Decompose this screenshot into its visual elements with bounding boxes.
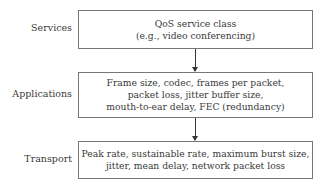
transport-box: Peak rate, sustainable rate, maximum bur… — [78, 141, 313, 179]
applications-line: mouth-to-ear delay, FEC (redundancy) — [106, 101, 284, 113]
layer-label-services: Services — [0, 22, 72, 33]
applications-line: packet loss, jitter buffer size, — [128, 89, 264, 101]
transport-line: jitter, mean delay, network packet loss — [106, 160, 285, 172]
services-box: QoS service class (e.g., video conferenc… — [78, 10, 313, 49]
arrow-applications-to-transport — [195, 118, 196, 140]
layer-label-transport: Transport — [0, 153, 72, 164]
transport-line: Peak rate, sustainable rate, maximum bur… — [82, 148, 310, 160]
applications-line: Frame size, codec, frames per packet, — [107, 77, 285, 89]
applications-box: Frame size, codec, frames per packet, pa… — [78, 72, 313, 118]
arrow-services-to-applications — [195, 49, 196, 71]
services-line: (e.g., video conferencing) — [136, 30, 255, 42]
services-line: QoS service class — [155, 18, 236, 30]
layer-label-applications: Applications — [0, 88, 72, 99]
